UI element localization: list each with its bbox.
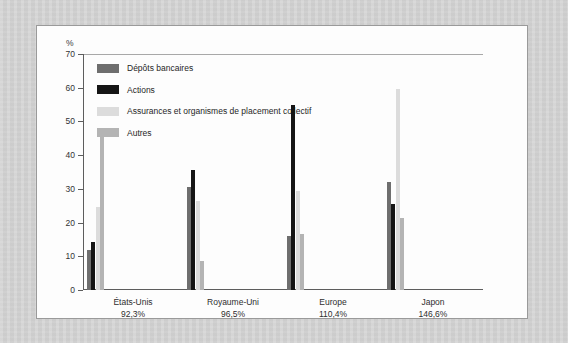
y-tick-label: 40	[66, 150, 75, 160]
x-axis-category-label: Royaume-Uni96,5%	[207, 296, 259, 320]
category-name: Royaume-Uni	[207, 297, 259, 307]
category-name: États-Unis	[113, 297, 152, 307]
plot-wrapper: % Dépôts bancairesActionsAssurances et o…	[37, 26, 527, 318]
y-tick-mark	[78, 290, 83, 291]
x-axis-category-label: Japon146,6%	[419, 296, 448, 320]
y-tick-label: 0	[70, 285, 75, 295]
bar	[100, 137, 104, 290]
y-tick-label: 60	[66, 83, 75, 93]
plot-area: 010203040506070 États-Unis92,3%Royaume-U…	[83, 54, 483, 290]
bar-group: États-Unis92,3%	[83, 54, 183, 290]
bar-group: Royaume-Uni96,5%	[183, 54, 283, 290]
y-axis-unit-label: %	[66, 38, 74, 48]
y-tick-label: 50	[66, 116, 75, 126]
y-tick-label: 10	[66, 251, 75, 261]
y-tick-label: 70	[66, 49, 75, 59]
y-tick-label: 20	[66, 218, 75, 228]
bar	[400, 218, 404, 290]
y-tick-label: 30	[66, 184, 75, 194]
bar-group: Japon146,6%	[383, 54, 483, 290]
bar	[300, 234, 304, 290]
figure-panel: % Dépôts bancairesActionsAssurances et o…	[36, 25, 528, 319]
category-percentage: 92,3%	[113, 308, 152, 320]
category-percentage: 110,4%	[319, 308, 347, 320]
category-name: Europe	[319, 297, 346, 307]
category-percentage: 96,5%	[207, 308, 259, 320]
category-percentage: 146,6%	[419, 308, 448, 320]
x-axis-category-label: États-Unis92,3%	[113, 296, 152, 320]
bar-group: Europe110,4%	[283, 54, 383, 290]
x-axis-category-label: Europe110,4%	[319, 296, 347, 320]
category-name: Japon	[421, 297, 444, 307]
bar	[200, 261, 204, 290]
